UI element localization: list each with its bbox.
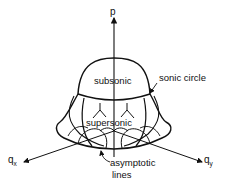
surface-diagram: p qx qy subsonic supersonic sonic circle… [0,0,225,189]
asymptotic-label-line2: lines [112,169,132,180]
qx-axis-label: qx [8,154,18,167]
sonic-circle-label: sonic circle [159,72,206,83]
char-fork-right [121,103,134,118]
char-fork-left [93,103,106,118]
asymptotic-pointer [101,151,110,162]
qy-axis-label: qy [204,154,214,168]
qx-axis [24,131,114,162]
sonic-circle-pointer [150,83,157,93]
p-axis-label: p [110,6,116,17]
asymptotic-label-line1: asymptotic [110,157,156,168]
subsonic-label: subsonic [94,75,132,86]
supersonic-label: supersonic [86,117,132,128]
